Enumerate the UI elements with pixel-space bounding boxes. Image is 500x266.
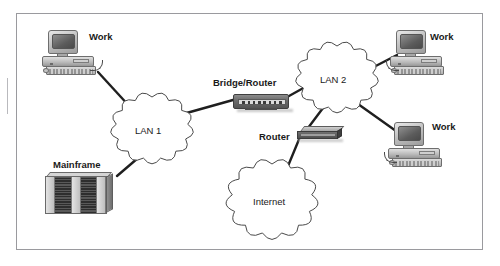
router-side-face xyxy=(337,128,342,139)
link-lan1-bridgerouter xyxy=(183,100,233,114)
power-led-icon xyxy=(50,63,53,65)
monitor-icon xyxy=(394,122,424,146)
label-work-top-left: Work xyxy=(89,32,113,42)
monitor-icon xyxy=(48,30,78,54)
label-work-bottom-right: Work xyxy=(432,122,456,132)
label-lan-2: LAN 2 xyxy=(320,75,346,85)
bridge-router-icon[interactable] xyxy=(233,92,291,112)
link-lan2-router xyxy=(308,108,323,128)
port-panel xyxy=(238,99,286,105)
label-work-top-right: Work xyxy=(430,32,454,42)
cable-icon xyxy=(384,152,397,163)
mainframe-icon[interactable] xyxy=(45,172,115,216)
mainframe-grille-2 xyxy=(81,177,98,213)
device-feet xyxy=(245,108,277,110)
keys-icon xyxy=(395,161,439,166)
router-icon[interactable] xyxy=(297,126,343,143)
port-led xyxy=(248,101,251,104)
cable-icon xyxy=(386,60,399,71)
mainframe-grille-1 xyxy=(55,177,72,213)
mainframe-front-face xyxy=(45,176,107,214)
label-bridge-router: Bridge/Router xyxy=(213,78,276,88)
mainframe-panel-right xyxy=(97,177,106,213)
label-mainframe: Mainframe xyxy=(53,160,101,170)
mainframe-panel-mid xyxy=(72,177,81,213)
port-led xyxy=(253,101,256,104)
screen-icon xyxy=(52,34,75,49)
drive-bay-icon xyxy=(421,59,437,63)
label-internet: Internet xyxy=(253,197,285,207)
router-shadow xyxy=(299,139,343,142)
drive-bay-icon xyxy=(73,59,89,63)
label-router: Router xyxy=(259,132,290,142)
mainframe-side-face xyxy=(106,173,113,213)
port-led xyxy=(269,101,272,104)
device-chassis xyxy=(233,94,289,109)
label-lan-1: LAN 1 xyxy=(135,126,161,136)
screen-icon xyxy=(400,34,423,49)
mouse-icon xyxy=(43,68,49,73)
keys-icon xyxy=(49,69,93,74)
drive-bay-icon xyxy=(419,151,435,155)
port-led xyxy=(242,101,245,104)
router-front-face xyxy=(297,131,338,139)
port-led xyxy=(274,101,277,104)
port-led xyxy=(258,101,261,104)
keys-icon xyxy=(397,69,441,74)
port-led xyxy=(263,101,266,104)
screen-icon xyxy=(398,126,421,141)
router-stripe xyxy=(301,134,335,136)
mainframe-panel-left xyxy=(46,177,55,213)
monitor-icon xyxy=(396,30,426,54)
keyboard-icon xyxy=(392,158,442,167)
cable-icon xyxy=(90,60,103,71)
keyboard-icon xyxy=(394,66,444,75)
port-led xyxy=(279,101,282,104)
keyboard-icon xyxy=(46,66,96,75)
